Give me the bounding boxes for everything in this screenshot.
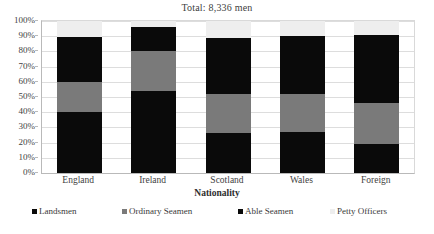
- y-axis-tick-mark: [35, 96, 38, 97]
- bar-segment[interactable]: [280, 36, 325, 94]
- y-axis-tick-mark: [35, 50, 38, 51]
- bar-stack: [206, 21, 251, 173]
- y-axis-tick-mark: [35, 142, 38, 143]
- bar-group[interactable]: [280, 21, 325, 173]
- legend-label: Ordinary Seamen: [129, 204, 192, 218]
- bar-group[interactable]: [206, 21, 251, 173]
- plot-area: [41, 20, 415, 174]
- y-axis-tick-label: 100%: [14, 16, 35, 25]
- bottom-caption: [0, 224, 434, 234]
- bar-segment[interactable]: [57, 21, 102, 37]
- bar-segment[interactable]: [57, 82, 102, 112]
- y-axis-tick-label: 50%: [19, 92, 36, 101]
- bar-segment[interactable]: [354, 21, 399, 35]
- x-axis: EnglandIrelandScotlandWalesForeign: [41, 174, 415, 188]
- y-axis-tick-label: 30%: [19, 122, 36, 131]
- x-axis-tick-label: Foreign: [339, 174, 413, 187]
- y-axis-tick-label: 40%: [19, 107, 36, 116]
- y-axis-tick-label: 70%: [19, 61, 36, 70]
- y-axis-tick-label: 20%: [19, 137, 36, 146]
- y-axis-tick-mark: [35, 20, 38, 21]
- legend-swatch-icon: [122, 209, 127, 214]
- bars-layer: [42, 21, 414, 173]
- legend-label: Petty Officers: [337, 204, 387, 218]
- legend-item[interactable]: Able Seamen: [238, 204, 293, 218]
- x-axis-tick-label: Scotland: [190, 174, 264, 187]
- x-axis-tick-label: Ireland: [115, 174, 189, 187]
- bar-segment[interactable]: [354, 144, 399, 173]
- bar-stack: [354, 21, 399, 173]
- bar-segment[interactable]: [131, 91, 176, 173]
- x-axis-tick-label: England: [41, 174, 115, 187]
- y-axis-tick-label: 0%: [23, 168, 35, 177]
- bar-segment[interactable]: [57, 37, 102, 82]
- y-axis-tick-mark: [35, 126, 38, 127]
- bar-segment[interactable]: [206, 38, 251, 94]
- legend-item[interactable]: Ordinary Seamen: [122, 204, 192, 218]
- bar-segment[interactable]: [131, 21, 176, 27]
- bar-segment[interactable]: [354, 103, 399, 144]
- legend-item[interactable]: Petty Officers: [330, 204, 387, 218]
- legend-swatch-icon: [32, 209, 37, 214]
- bar-segment[interactable]: [280, 132, 325, 173]
- y-axis-tick-mark: [35, 172, 38, 173]
- bar-segment[interactable]: [131, 27, 176, 51]
- bar-stack: [57, 21, 102, 173]
- y-axis-tick-label: 60%: [19, 76, 36, 85]
- bar-stack: [280, 21, 325, 173]
- legend-swatch-icon: [330, 209, 335, 214]
- stacked-bar-chart: Total: 8,336 men 0%10%20%30%40%50%60%70%…: [0, 0, 434, 234]
- legend-label: Landsmen: [39, 204, 77, 218]
- y-axis-tick-mark: [35, 81, 38, 82]
- y-axis-tick-mark: [35, 111, 38, 112]
- bar-segment[interactable]: [206, 94, 251, 134]
- bar-segment[interactable]: [354, 35, 399, 103]
- chart-title: Total: 8,336 men: [0, 2, 434, 14]
- bar-group[interactable]: [354, 21, 399, 173]
- bar-segment[interactable]: [280, 21, 325, 36]
- x-axis-tick-label: Wales: [264, 174, 338, 187]
- bar-segment[interactable]: [280, 94, 325, 132]
- y-axis-tick-mark: [35, 157, 38, 158]
- bar-segment[interactable]: [206, 21, 251, 38]
- y-axis: 0%10%20%30%40%50%60%70%80%90%100%: [0, 20, 38, 172]
- y-axis-tick-label: 80%: [19, 46, 36, 55]
- bar-group[interactable]: [131, 21, 176, 173]
- bar-stack: [131, 21, 176, 173]
- legend-label: Able Seamen: [245, 204, 293, 218]
- bar-segment[interactable]: [206, 133, 251, 173]
- x-axis-title: Nationality: [0, 188, 434, 198]
- bar-segment[interactable]: [131, 51, 176, 91]
- y-axis-tick-mark: [35, 66, 38, 67]
- chart-legend: LandsmenOrdinary SeamenAble SeamenPetty …: [0, 204, 434, 220]
- bar-group[interactable]: [57, 21, 102, 173]
- legend-swatch-icon: [238, 209, 243, 214]
- y-axis-tick-mark: [35, 35, 38, 36]
- y-axis-tick-label: 90%: [19, 31, 36, 40]
- bar-segment[interactable]: [57, 112, 102, 173]
- legend-item[interactable]: Landsmen: [32, 204, 77, 218]
- y-axis-tick-label: 10%: [19, 152, 36, 161]
